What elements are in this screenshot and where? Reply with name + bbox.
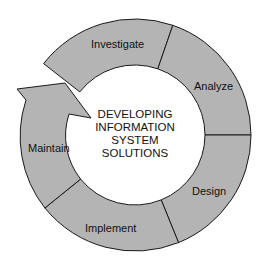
sdlc-cycle-diagram: Investigate Analyze Design Implement Mai… (0, 0, 264, 264)
center-title-line: SOLUTIONS (70, 147, 200, 160)
label-investigate: Investigate (91, 38, 144, 50)
center-title-line: INFORMATION (70, 121, 200, 134)
label-design: Design (192, 185, 226, 197)
center-title-line: DEVELOPING (70, 108, 200, 121)
center-title-line: SYSTEM (70, 134, 200, 147)
label-implement: Implement (85, 222, 136, 234)
center-title: DEVELOPING INFORMATION SYSTEM SOLUTIONS (70, 108, 200, 160)
segment-investigate (44, 19, 173, 92)
label-analyze: Analyze (194, 80, 233, 92)
label-maintain: Maintain (28, 142, 70, 154)
